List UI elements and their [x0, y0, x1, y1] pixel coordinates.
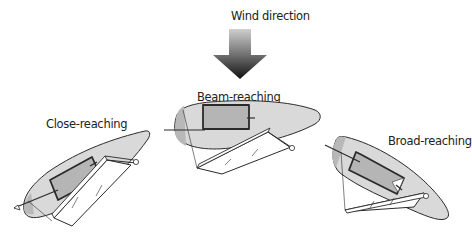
close-reaching-boat: [14, 131, 150, 226]
broad-reaching-boat: [325, 136, 449, 219]
beam-reaching-boat: [164, 101, 320, 174]
cockpit: [203, 105, 249, 129]
down-arrow-icon: [213, 29, 267, 79]
